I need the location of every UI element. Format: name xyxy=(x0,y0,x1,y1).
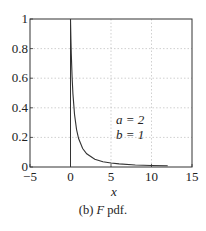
y-tick-label: 1 xyxy=(22,11,29,26)
y-tick-label: 0 xyxy=(22,159,29,174)
x-tick-label: 10 xyxy=(145,169,158,184)
x-axis-label: x xyxy=(110,184,117,199)
caption-suffix: pdf. xyxy=(104,203,127,217)
figure-caption: (b) F pdf. xyxy=(0,203,206,218)
y-tick-label: 0.8 xyxy=(12,41,28,56)
y-tick-label: 0.4 xyxy=(12,100,29,115)
y-tick-label: 0.6 xyxy=(12,70,29,85)
x-tick-label: 5 xyxy=(108,169,115,184)
x-tick-label: 15 xyxy=(186,169,199,184)
caption-prefix: (b) xyxy=(79,203,97,217)
x-tick-label: 0 xyxy=(67,169,74,184)
pdf-curve xyxy=(71,19,168,166)
y-tick-label: 0.2 xyxy=(12,129,28,144)
chart: −505101500.20.40.60.81a = 2b = 1x xyxy=(0,0,206,231)
annotation-b: b = 1 xyxy=(116,127,144,142)
annotation-a: a = 2 xyxy=(116,112,145,127)
